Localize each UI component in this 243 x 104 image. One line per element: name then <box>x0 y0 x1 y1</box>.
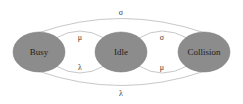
edge-label-busy-idle: μ <box>78 33 82 42</box>
edge-label-outer-top: σ <box>119 8 124 17</box>
state-transition-diagram: Busy Idle Collision μ λ σ μ σ λ <box>0 0 243 104</box>
edge-label-idle-busy: λ <box>78 63 82 72</box>
state-collision-label: Collision <box>187 47 221 57</box>
edge-outer-top <box>38 19 205 34</box>
edge-label-outer-bottom: λ <box>119 89 123 98</box>
state-idle-label: Idle <box>114 47 128 57</box>
edge-label-collision-idle: μ <box>160 63 164 72</box>
edge-label-idle-collision: σ <box>160 33 165 42</box>
edge-outer-bottom <box>38 71 205 86</box>
state-busy-label: Busy <box>30 47 49 57</box>
